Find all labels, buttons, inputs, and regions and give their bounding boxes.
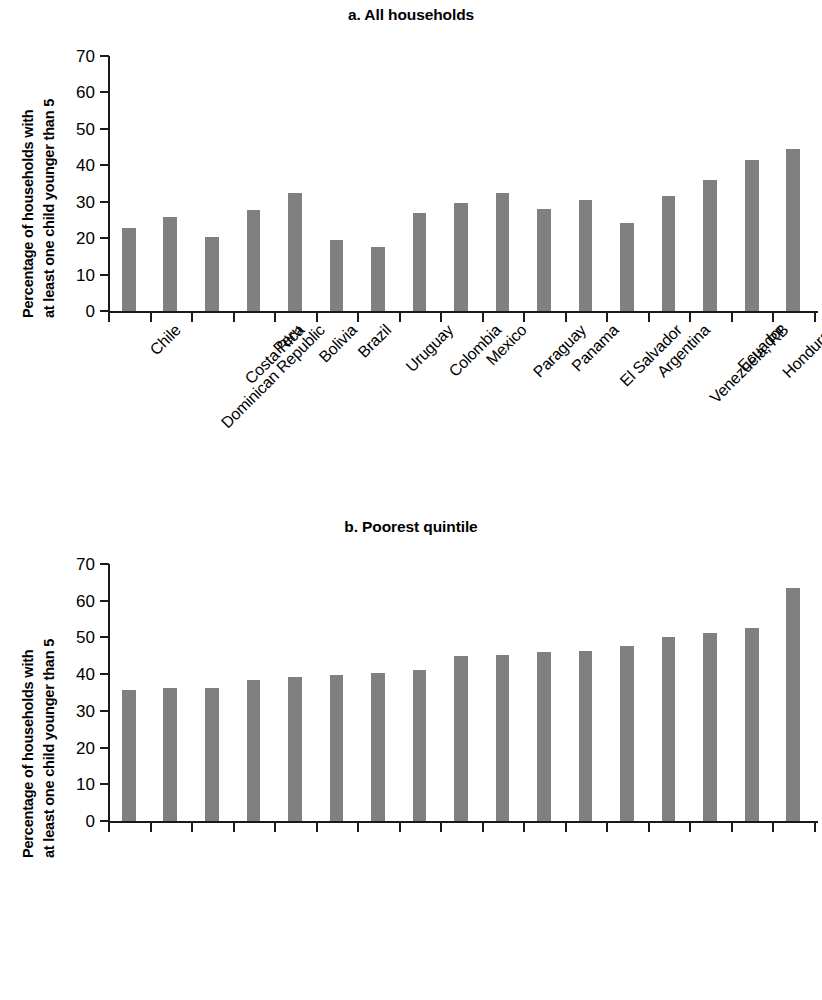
y-axis-tick-label: 20 bbox=[76, 739, 95, 756]
bar bbox=[620, 223, 634, 311]
bar bbox=[703, 180, 717, 312]
bar bbox=[163, 688, 177, 821]
x-axis-tick bbox=[108, 822, 110, 832]
y-axis-tick bbox=[100, 710, 109, 712]
bar bbox=[122, 228, 136, 311]
x-axis-tick bbox=[648, 822, 650, 832]
bar bbox=[579, 200, 593, 311]
y-axis-tick-label: 0 bbox=[86, 813, 95, 830]
bar bbox=[620, 646, 634, 821]
bar bbox=[163, 217, 177, 311]
bar bbox=[786, 588, 800, 821]
bar bbox=[205, 688, 219, 821]
bar bbox=[786, 149, 800, 311]
y-axis-tick-label: 40 bbox=[76, 157, 95, 174]
y-axis-tick-label: 70 bbox=[76, 48, 95, 65]
y-axis-tick-label: 60 bbox=[76, 592, 95, 609]
chart-panel-poorest-quintile: b. Poorest quintile Percentage of househ… bbox=[0, 500, 822, 1000]
x-axis-tick bbox=[814, 822, 816, 832]
y-axis-tick-label: 30 bbox=[76, 193, 95, 210]
panel-b-bars bbox=[108, 564, 814, 821]
bar bbox=[662, 637, 676, 821]
x-axis-category-label: Dominican Republic bbox=[219, 322, 328, 431]
panel-a-category-labels: ChileDominican RepublicCosta RicaPeruBol… bbox=[108, 318, 822, 448]
y-axis-tick bbox=[100, 164, 109, 166]
bar bbox=[413, 213, 427, 311]
x-axis-tick bbox=[606, 822, 608, 832]
x-axis-tick bbox=[316, 822, 318, 832]
y-axis-tick bbox=[100, 128, 109, 130]
y-axis-tick bbox=[100, 91, 109, 93]
y-axis-tick bbox=[100, 673, 109, 675]
bar bbox=[371, 247, 385, 311]
x-axis-tick bbox=[357, 822, 359, 832]
panel-a-y-axis-title: Percentage of households with at least o… bbox=[0, 0, 56, 320]
y-axis-title-line2: at least one child younger than 5 bbox=[39, 99, 59, 318]
x-axis-tick bbox=[482, 822, 484, 832]
y-axis-title-line1: Percentage of households with bbox=[18, 109, 38, 318]
y-axis-tick-label: 30 bbox=[76, 702, 95, 719]
bar bbox=[745, 160, 759, 311]
bar bbox=[122, 690, 136, 821]
y-axis-tick bbox=[100, 201, 109, 203]
bar bbox=[703, 633, 717, 821]
x-axis-tick bbox=[274, 822, 276, 832]
y-axis-tick-label: 10 bbox=[76, 266, 95, 283]
bar bbox=[413, 670, 427, 821]
y-axis-tick-label: 70 bbox=[76, 556, 95, 573]
bar bbox=[454, 203, 468, 311]
x-axis-tick bbox=[565, 822, 567, 832]
y-axis-tick-label: 60 bbox=[76, 84, 95, 101]
x-axis-category-label: Brazil bbox=[356, 322, 395, 361]
bar bbox=[288, 677, 302, 821]
x-axis-tick bbox=[731, 822, 733, 832]
x-axis-tick bbox=[150, 822, 152, 832]
bar bbox=[745, 628, 759, 821]
chart-panel-all-households: a. All households Percentage of househol… bbox=[0, 0, 822, 500]
x-axis-tick bbox=[689, 822, 691, 832]
x-axis-tick bbox=[233, 822, 235, 832]
bar bbox=[454, 656, 468, 821]
bar bbox=[537, 652, 551, 821]
panel-a-plot-area: 010203040506070 bbox=[108, 56, 814, 311]
bar bbox=[330, 675, 344, 821]
x-axis-tick bbox=[523, 822, 525, 832]
panel-b-y-axis-title: Percentage of households with at least o… bbox=[0, 540, 56, 860]
y-axis-tick bbox=[100, 274, 109, 276]
panel-b-plot-area: 010203040506070 bbox=[108, 564, 814, 821]
y-axis-tick bbox=[100, 600, 109, 602]
y-axis-title-line1: Percentage of households with bbox=[18, 649, 38, 858]
y-axis-tick-label: 20 bbox=[76, 230, 95, 247]
bar bbox=[288, 193, 302, 311]
y-axis-title-line2: at least one child younger than 5 bbox=[39, 639, 59, 858]
y-axis-tick bbox=[100, 563, 109, 565]
x-axis-tick bbox=[399, 822, 401, 832]
bar bbox=[247, 680, 261, 821]
bar bbox=[537, 209, 551, 311]
y-axis-tick bbox=[100, 636, 109, 638]
panel-a-title: a. All households bbox=[0, 6, 822, 24]
panel-b-title: b. Poorest quintile bbox=[0, 518, 822, 536]
y-axis-tick-label: 50 bbox=[76, 120, 95, 137]
y-axis-tick bbox=[100, 747, 109, 749]
y-axis-tick-label: 10 bbox=[76, 776, 95, 793]
bar bbox=[662, 196, 676, 311]
bar bbox=[371, 673, 385, 821]
y-axis-tick bbox=[100, 55, 109, 57]
bar bbox=[330, 240, 344, 311]
y-axis-tick bbox=[100, 783, 109, 785]
y-axis-tick-label: 0 bbox=[86, 303, 95, 320]
x-axis-tick bbox=[191, 822, 193, 832]
bar bbox=[205, 237, 219, 311]
x-axis-tick bbox=[772, 822, 774, 832]
y-axis-tick bbox=[100, 237, 109, 239]
bar bbox=[496, 193, 510, 311]
panel-a-x-axis-line bbox=[108, 311, 818, 313]
panel-b-x-axis-line bbox=[108, 821, 818, 823]
bar bbox=[496, 655, 510, 821]
y-axis-tick-label: 50 bbox=[76, 629, 95, 646]
x-axis-tick bbox=[440, 822, 442, 832]
bar bbox=[579, 651, 593, 821]
bar bbox=[247, 210, 261, 311]
panel-a-bars bbox=[108, 56, 814, 311]
